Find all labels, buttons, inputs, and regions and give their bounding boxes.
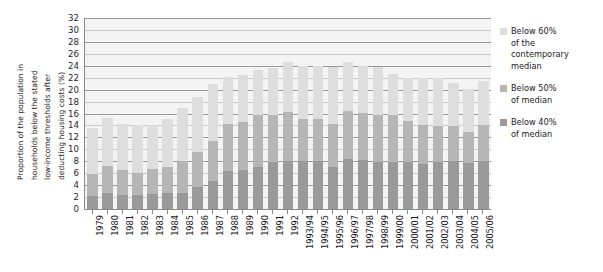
stacked-bar	[162, 119, 173, 209]
bar-group	[250, 18, 265, 209]
x-axis-tick-mark	[445, 209, 460, 214]
y-axis-tick-label: 16	[68, 110, 79, 118]
bar-group	[160, 18, 175, 209]
bar-segment-below-50	[373, 115, 384, 162]
legend-label-line: of median	[511, 129, 556, 141]
legend-label-line: median	[511, 61, 569, 73]
bar-segment-below-50	[433, 126, 444, 162]
x-axis-tick-mark	[219, 209, 234, 214]
bar-group	[431, 18, 446, 209]
bar-segment-below-60	[283, 62, 294, 112]
legend-label-line: contemporary	[511, 49, 569, 61]
bar-segment-below-40	[328, 167, 339, 209]
legend-item: Below 60%of thecontemporarymedian	[500, 26, 603, 72]
bar-series-group	[85, 18, 491, 209]
y-axis-tick-label: 0	[74, 205, 79, 213]
stacked-bar	[223, 77, 234, 210]
bar-segment-below-40	[298, 161, 309, 209]
bar-segment-below-50	[208, 141, 219, 181]
bar-segment-below-60	[418, 78, 429, 125]
x-axis-tick-mark	[475, 209, 490, 214]
x-axis-tick-mark	[249, 209, 264, 214]
x-axis-tick-labels: 1979198019811982198319841985198619871988…	[84, 215, 490, 271]
bar-segment-below-60	[313, 66, 324, 120]
y-axis-tick-label: 30	[68, 26, 79, 34]
bar-segment-below-50	[223, 124, 234, 171]
bar-group	[220, 18, 235, 209]
legend-label: Below 60%of thecontemporarymedian	[511, 26, 569, 72]
bar-segment-below-50	[87, 174, 98, 195]
bar-group	[401, 18, 416, 209]
bar-segment-below-50	[177, 161, 188, 194]
bar-segment-below-50	[132, 173, 143, 195]
bar-segment-below-60	[87, 128, 98, 175]
y-axis-tick-label: 2	[74, 193, 79, 201]
bar-segment-below-60	[253, 70, 264, 115]
x-axis-tick-mark	[279, 209, 294, 214]
chart-legend: Below 60%of thecontemporarymedianBelow 5…	[500, 26, 603, 151]
bar-segment-below-60	[463, 89, 474, 132]
bar-group	[130, 18, 145, 209]
bar-segment-below-40	[117, 195, 128, 209]
x-axis-tick-mark	[174, 209, 189, 214]
bar-segment-below-40	[132, 195, 143, 209]
bar-group	[235, 18, 250, 209]
legend-label-line: Below 50%	[511, 83, 556, 95]
x-axis-label-cell: 1980	[99, 215, 114, 271]
x-axis-label-cell: 2005/06	[475, 215, 490, 271]
bar-segment-below-60	[162, 119, 173, 167]
stacked-bar	[448, 83, 459, 209]
bar-segment-below-60	[343, 62, 354, 111]
x-axis-label-cell: 1996/97	[340, 215, 355, 271]
bar-segment-below-50	[328, 124, 339, 166]
bar-group	[175, 18, 190, 209]
stacked-bar	[192, 97, 203, 209]
bar-segment-below-40	[223, 171, 234, 209]
y-axis-tick-label: 18	[68, 98, 79, 106]
stacked-bar	[313, 66, 324, 209]
bar-segment-below-60	[177, 108, 188, 161]
stacked-bar	[238, 75, 249, 209]
bar-segment-below-40	[147, 194, 158, 209]
stacked-bar	[208, 84, 219, 209]
x-axis-tick-mark	[325, 209, 340, 214]
bar-segment-below-60	[298, 66, 309, 119]
x-axis-label-cell: 1990	[249, 215, 264, 271]
y-axis-tick-label: 10	[68, 145, 79, 153]
y-axis-title-line: households below the stated	[28, 64, 42, 180]
y-axis-tick-label: 20	[68, 86, 79, 94]
x-axis-tick-mark	[355, 209, 370, 214]
stacked-bar	[117, 124, 128, 209]
x-axis-tick-mark	[385, 209, 400, 214]
stacked-bar	[433, 78, 444, 209]
bar-segment-below-40	[313, 161, 324, 209]
bar-segment-below-40	[388, 162, 399, 209]
bar-segment-below-50	[448, 126, 459, 161]
bar-segment-below-40	[268, 162, 279, 209]
bar-segment-below-50	[358, 113, 369, 160]
bar-segment-below-60	[117, 124, 128, 169]
stacked-bar	[418, 78, 429, 209]
x-axis-label-cell: 1992	[279, 215, 294, 271]
y-axis-tick-label: 8	[74, 157, 79, 165]
y-axis-tick-labels: 32302826242220181614121086420	[57, 14, 79, 210]
x-axis-tick-mark	[234, 209, 249, 214]
legend-label-line: Below 60%	[511, 26, 569, 38]
x-axis-tick-mark	[340, 209, 355, 214]
y-axis-tick-label: 32	[68, 14, 79, 22]
x-axis-tick-mark	[99, 209, 114, 214]
stacked-bar	[343, 62, 354, 209]
bar-segment-below-40	[192, 187, 203, 209]
bar-segment-below-40	[478, 161, 489, 209]
y-axis-title-line: Proportion of the population in	[14, 64, 28, 180]
x-axis-label-cell: 1994/95	[309, 215, 324, 271]
x-axis-label-cell: 2004/05	[460, 215, 475, 271]
stacked-bar	[177, 108, 188, 209]
bar-group	[371, 18, 386, 209]
x-axis-label-cell: 1987	[204, 215, 219, 271]
bar-segment-below-50	[283, 112, 294, 162]
bar-segment-below-50	[268, 115, 279, 163]
bar-segment-below-60	[403, 78, 414, 122]
x-axis-label-cell: 1988	[219, 215, 234, 271]
stacked-bar	[463, 89, 474, 209]
